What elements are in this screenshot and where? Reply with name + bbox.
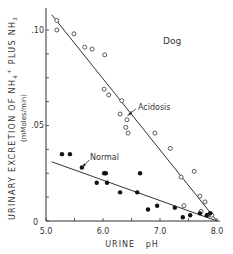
y-axis-units: (mMoles/min) [20,94,28,142]
normal-data-point [95,181,99,185]
x-tick-label: 8.0 [211,227,224,236]
y-label-sub: 4 [12,74,18,79]
acidosis-data-point [203,200,207,204]
y-label-text: PLUS NH [8,21,17,68]
normal-data-point [135,190,139,194]
svg-text:URINARY EXCRETION OF NH4+ PLUS: URINARY EXCRETION OF NH4+ PLUS NH3 [6,16,18,220]
normal-data-point [181,215,185,219]
y-label-text: URINARY EXCRETION OF NH [8,79,17,220]
y-axis-label: URINARY EXCRETION OF NH4+ PLUS NH3 [6,16,18,220]
acidosis-label: Acidosis [138,103,170,112]
species-label: Dog [163,36,181,46]
ticks [46,30,217,221]
x-axis-label: URINE pH [105,240,159,249]
acidosis-data-point [83,45,87,49]
acidosis-data-point [55,28,59,32]
normal-data-point [68,152,72,156]
normal-data-point [118,190,122,194]
acidosis-data-point [120,99,124,103]
acidosis-data-point [72,32,76,36]
fit-lines [52,15,217,221]
normal-data-point [105,181,109,185]
normal-data-point [155,204,159,208]
acidosis-data-point [179,175,183,179]
y-label-sub: 3 [12,16,18,21]
x-tick-label: 6.0 [97,227,110,236]
acidosis-data-point [118,112,122,116]
acidosis-data-point [103,53,107,57]
acidosis-data-point [125,118,129,122]
y-tick-label: 0 [33,218,38,227]
y-tick-label: .10 [31,26,44,35]
acidosis-data-point [102,87,106,91]
acidosis-data-point [107,93,111,97]
acidosis-fit-line [52,15,217,221]
acidosis-data-point [90,47,94,51]
scatter-plot: 0 .05 .10 5.0 6.0 7.0 8.0 URINE pH URINA… [0,0,233,254]
normal-data-point [188,213,192,217]
chart: 0 .05 .10 5.0 6.0 7.0 8.0 URINE pH URINA… [0,0,233,254]
normal-data-point [173,205,177,209]
y-tick-label: .05 [31,121,44,130]
normal-data-point [104,171,108,175]
acidosis-data-point [55,18,59,22]
acidosis-data-point [198,194,202,198]
x-tick-label: 7.0 [154,227,167,236]
x-tick-label: 5.0 [40,227,53,236]
acidosis-data-point [182,204,186,208]
normal-data-point [60,152,64,156]
acidosis-data-point [192,169,196,173]
acidosis-data-point [126,131,130,135]
normal-data-point [198,211,202,215]
normal-data-point [138,171,142,175]
acidosis-data-point [124,125,128,129]
normal-label: Normal [90,153,119,162]
acidosis-data-point [153,131,157,135]
normal-data-point [146,207,150,211]
normal-data-point [208,211,212,215]
acidosis-data-point [168,146,172,150]
